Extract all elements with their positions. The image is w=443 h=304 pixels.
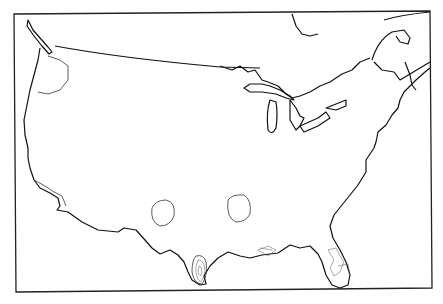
- canada-coast-north: [384, 12, 430, 20]
- lake-superior: [244, 84, 294, 100]
- maritimes: [374, 62, 430, 80]
- contour-florida: [328, 248, 350, 276]
- canada-border: [55, 46, 260, 68]
- contour-south-texas: [192, 256, 207, 284]
- contour-pacific-northwest: [38, 56, 68, 94]
- great-lakes-north-shore: [220, 58, 370, 98]
- contour-central-loop: [228, 195, 251, 222]
- map-canvas: [0, 0, 443, 304]
- lake-michigan: [267, 100, 277, 133]
- hudson-bay: [292, 14, 318, 36]
- st-lawrence: [372, 30, 410, 60]
- lake-erie: [300, 112, 330, 132]
- us-coastline: [24, 48, 430, 288]
- contour-southwest-loop: [152, 200, 175, 226]
- map-frame: [14, 11, 432, 292]
- contour-south-texas-inner: [196, 260, 205, 282]
- lake-ontario: [326, 100, 346, 110]
